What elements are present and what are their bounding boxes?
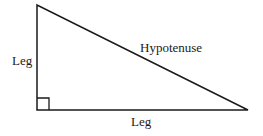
right-angle-marker <box>37 98 49 110</box>
left-leg-label: Leg <box>12 53 33 68</box>
hypotenuse-label: Hypotenuse <box>140 40 202 55</box>
triangle-outline <box>37 5 248 110</box>
bottom-leg-label: Leg <box>131 114 152 129</box>
right-triangle-diagram: Leg Hypotenuse Leg <box>0 0 263 136</box>
triangle-svg: Leg Hypotenuse Leg <box>0 0 263 136</box>
